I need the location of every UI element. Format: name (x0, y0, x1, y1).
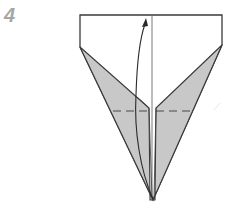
origami-diagram (0, 0, 240, 212)
scan-artifact (214, 103, 220, 110)
